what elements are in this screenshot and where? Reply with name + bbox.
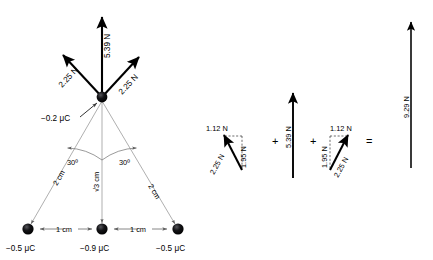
component-triangle-left: 1.12 N 1.95 N 2.25 N (206, 124, 248, 176)
charge-label-base-right: −0.5 μC (156, 244, 185, 253)
charge-dot-base-left (22, 223, 33, 234)
component-label-vertical-left: 1.95 N (239, 146, 248, 168)
left-panel: 30º 30º 2 cm √3 cm 2 cm 1 cm 1 cm 5.39 N… (6, 17, 185, 253)
vector-label-5-39N: 5.39 N (284, 126, 293, 148)
component-label-horizontal-left: 1.12 N (206, 124, 228, 133)
operator-plus-1: + (272, 135, 278, 147)
component-label-vertical-right: 1.95 N (320, 146, 329, 168)
component-triangle-right: 1.12 N 1.95 N 2.25 N (320, 124, 352, 179)
charge-dot-base-center (96, 223, 107, 234)
single-vector-5-39N: 5.39 N (284, 93, 293, 178)
charge-label-base-left: −0.5 μC (6, 244, 35, 253)
charge-dot-apex (97, 92, 108, 103)
angle-label-left: 30º (67, 158, 78, 167)
distance-label-base-right: 1 cm (130, 225, 146, 234)
operator-equals: = (366, 135, 372, 147)
operator-plus-2: + (310, 135, 316, 147)
resultant-vector-label: 9.29 N (402, 96, 411, 118)
distance-label-base-left: 1 cm (56, 225, 72, 234)
force-label-5-39N: 5.39 N (103, 34, 112, 58)
apex-callout-leader (80, 103, 97, 117)
component-label-resultant-left: 2.25 N (208, 153, 226, 176)
angle-label-right: 30º (119, 158, 130, 167)
right-panel: 1.12 N 1.95 N 2.25 N + 5.39 N + 1.12 N 1… (206, 22, 411, 179)
force-vector-diagram: 30º 30º 2 cm √3 cm 2 cm 1 cm 1 cm 5.39 N… (0, 0, 433, 260)
force-label-2-25N-left: 2.25 N (57, 66, 80, 90)
component-label-horizontal-right: 1.12 N (330, 124, 352, 133)
charge-label-base-center: −0.9 μC (80, 244, 109, 253)
charge-dot-base-right (172, 223, 183, 234)
apex-charge-label: −0.2 μC (41, 114, 70, 123)
side-line-right (102, 101, 175, 224)
resultant-vector-9-29N: 9.29 N (402, 22, 411, 168)
distance-label-center: √3 cm (92, 172, 101, 192)
distance-label-left-side: 2 cm (51, 169, 67, 187)
